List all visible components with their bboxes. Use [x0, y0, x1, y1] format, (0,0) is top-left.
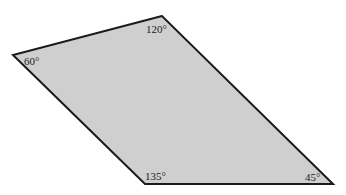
angle-label-bottom-left: 135° [145, 170, 166, 182]
quadrilateral-diagram: 120° 60° 135° 45° [0, 0, 346, 195]
angle-label-left: 60° [24, 55, 39, 67]
angle-label-bottom-right: 45° [305, 171, 320, 183]
angle-label-top: 120° [146, 23, 167, 35]
quadrilateral-shape [13, 16, 333, 184]
